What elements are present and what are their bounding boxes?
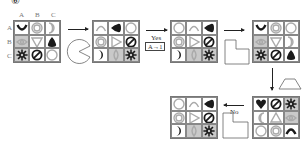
grid-cell [45,21,60,35]
arrow-right-3 [224,30,244,31]
grid-cell [171,111,186,125]
grid-cell [124,35,139,49]
triangle-right-icon [188,112,200,124]
grid-cell [284,21,299,35]
grid-5 [252,96,300,139]
arc-icon [188,22,200,34]
grid-cell [202,21,217,35]
row-label-c: C [7,53,12,60]
circle-icon [285,22,297,34]
no-sign-icon [203,36,215,48]
circle-icon [125,22,137,34]
grid-cell [253,21,268,35]
diamond-eye-icon [110,49,122,61]
triangle-right-icon [188,36,200,48]
grid-cell [202,97,217,111]
blob-left-icon [110,22,122,34]
grid-cell [171,124,186,138]
grid-cell [108,35,123,49]
grid-cell [93,21,108,35]
grid-cell [284,111,299,125]
cup-icon [16,22,28,34]
grid-cell [186,35,201,49]
grid-cell [186,124,201,138]
grid-cell [202,35,217,49]
grid-cell [171,48,186,62]
grid-cell [268,48,283,62]
grid-cell [171,97,186,111]
grid-cell [186,97,201,111]
no-sign-icon [270,49,282,61]
figure-number: ⑥ [11,0,20,6]
grid-cell [268,21,283,35]
grid-cell [108,21,123,35]
grid-cell [29,48,44,62]
grid-cell [14,21,29,35]
eye-icon [255,36,267,48]
grid-cell [124,48,139,62]
grid-cell [29,35,44,49]
crescent-right-icon [95,49,107,61]
grid-cell [268,97,283,111]
arrow-right-1 [68,29,88,30]
grid-cell [171,21,186,35]
arc-icon [285,125,297,137]
yes-rule-box: A→1 [145,42,165,51]
blob-up-icon [285,49,297,61]
arrow-down [272,68,273,90]
grid-cell [14,35,29,49]
grid-cell [45,48,60,62]
crescent-right-icon [173,125,185,137]
blob-up-icon [46,36,58,48]
yes-label: Yes [151,34,161,42]
crescent-right-icon [173,49,185,61]
smiley-icon [173,112,185,124]
grid-4 [252,20,300,63]
grid-cell [45,35,60,49]
crescent-right-icon [285,36,297,48]
grid-cell [268,124,283,138]
grid-cell [253,97,268,111]
grid-cell [268,111,283,125]
smiley-icon [95,36,107,48]
grid-cell [171,35,186,49]
row-label-b: B [7,39,12,46]
grid-cell [284,48,299,62]
crescent-right-icon [46,22,58,34]
column-label-a: A [19,12,24,19]
grid-cell [93,48,108,62]
grid-2 [92,20,140,63]
arrow-left-no [224,105,244,106]
sun-icon [285,98,297,110]
grid-cell [29,21,44,35]
arc-icon [188,98,200,110]
grid-3 [170,20,218,63]
row-label-a: A [7,25,12,32]
heart-icon [255,98,267,110]
grid-cell [284,124,299,138]
grid-cell [202,124,217,138]
diamond-eye-icon [188,125,200,137]
no-sign-icon [125,36,137,48]
sun-icon [203,49,215,61]
cup-icon [255,22,267,34]
grid-cell [253,124,268,138]
blob-left-icon [203,22,215,34]
column-label-c: C [51,12,56,19]
arrow-right-yes [146,30,167,31]
grid-6 [170,96,218,139]
circle-icon [46,49,58,61]
eye-icon [285,112,297,124]
no-sign-icon [270,98,282,110]
smiley-icon [31,22,43,34]
sun-icon [125,49,137,61]
grid-cell [124,21,139,35]
trapezoid-shape-icon [278,78,302,90]
crescent-left-icon [255,112,267,124]
triangle-down-icon [31,36,43,48]
grid-cell [284,35,299,49]
grid-cell [186,111,201,125]
grid-cell [268,35,283,49]
smiley-icon [270,125,282,137]
grid-cell [253,48,268,62]
